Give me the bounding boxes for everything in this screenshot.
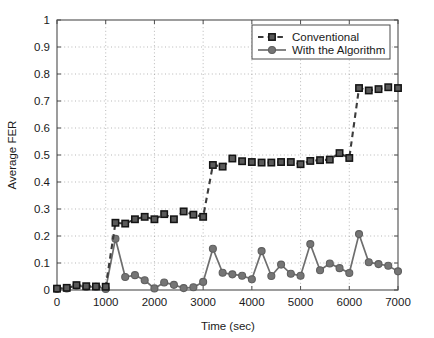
data-point-marker bbox=[327, 156, 333, 162]
legend-label-conventional: Conventional bbox=[292, 31, 359, 43]
y-tick-label: 0.7 bbox=[34, 95, 50, 107]
data-point-marker bbox=[210, 162, 216, 168]
y-tick-label: 0 bbox=[44, 284, 50, 296]
data-point-marker bbox=[209, 245, 216, 252]
data-point-marker bbox=[180, 285, 187, 292]
data-point-marker bbox=[219, 163, 225, 169]
data-point-marker bbox=[346, 269, 353, 276]
x-tick-label: 4000 bbox=[239, 296, 265, 308]
legend-marker-circle-icon bbox=[269, 47, 276, 54]
x-tick-label: 7000 bbox=[385, 296, 411, 308]
x-axis-title: Time (sec) bbox=[201, 320, 255, 332]
data-point-marker bbox=[385, 84, 391, 90]
data-point-marker bbox=[170, 281, 177, 288]
legend-label-algorithm: With the Algorithm bbox=[292, 44, 385, 56]
data-point-marker bbox=[171, 216, 177, 222]
data-point-marker bbox=[268, 272, 275, 279]
data-point-marker bbox=[132, 216, 138, 222]
x-tick-label: 2000 bbox=[142, 296, 168, 308]
data-point-marker bbox=[248, 276, 255, 283]
data-point-marker bbox=[151, 285, 158, 292]
series-line bbox=[57, 87, 398, 288]
data-point-marker bbox=[180, 208, 186, 214]
y-axis-title: Average FER bbox=[6, 121, 18, 190]
data-point-marker bbox=[103, 284, 109, 290]
x-tick-label: 3000 bbox=[190, 296, 216, 308]
data-point-marker bbox=[122, 274, 129, 281]
data-point-marker bbox=[375, 261, 382, 268]
series-line bbox=[57, 234, 398, 289]
x-tick-label: 0 bbox=[54, 296, 60, 308]
data-point-marker bbox=[297, 161, 303, 167]
data-point-marker bbox=[268, 159, 274, 165]
data-point-marker bbox=[141, 214, 147, 220]
data-point-marker bbox=[229, 271, 236, 278]
fer-line-chart: 00.10.20.30.40.50.60.70.80.91 0100020003… bbox=[0, 0, 434, 338]
x-tick-label: 1000 bbox=[93, 296, 119, 308]
data-point-marker bbox=[395, 85, 401, 91]
data-point-marker bbox=[200, 214, 206, 220]
data-point-marker bbox=[375, 86, 381, 92]
data-point-marker bbox=[326, 260, 333, 267]
data-point-marker bbox=[307, 241, 314, 248]
data-point-marker bbox=[229, 155, 235, 161]
data-point-marker bbox=[239, 158, 245, 164]
y-axis-tick-labels: 00.10.20.30.40.50.60.70.80.91 bbox=[34, 14, 51, 296]
data-point-marker bbox=[365, 259, 372, 266]
y-tick-label: 0.5 bbox=[34, 149, 50, 161]
data-point-marker bbox=[287, 270, 294, 277]
data-point-marker bbox=[249, 159, 255, 165]
data-point-marker bbox=[356, 231, 363, 238]
data-point-marker bbox=[297, 272, 304, 279]
data-point-marker bbox=[131, 272, 138, 279]
data-point-marker bbox=[356, 85, 362, 91]
data-point-marker bbox=[346, 155, 352, 161]
data-point-marker bbox=[151, 216, 157, 222]
data-point-marker bbox=[73, 282, 79, 288]
x-tick-label: 5000 bbox=[288, 296, 314, 308]
data-point-marker bbox=[317, 267, 324, 274]
data-point-marker bbox=[190, 211, 196, 217]
data-point-marker bbox=[219, 269, 226, 276]
data-point-marker bbox=[93, 283, 99, 289]
y-tick-label: 0.6 bbox=[34, 122, 50, 134]
data-point-marker bbox=[112, 220, 118, 226]
data-point-marker bbox=[366, 87, 372, 93]
legend-marker-square-icon bbox=[269, 34, 275, 40]
data-point-marker bbox=[161, 211, 167, 217]
data-point-marker bbox=[64, 285, 70, 291]
series-conventional bbox=[54, 84, 401, 292]
y-tick-label: 1 bbox=[44, 14, 50, 26]
y-tick-label: 0.2 bbox=[34, 230, 50, 242]
data-point-marker bbox=[385, 262, 392, 269]
y-tick-label: 0.3 bbox=[34, 203, 50, 215]
data-point-marker bbox=[278, 261, 285, 268]
x-axis-tick-labels: 01000200030004000500060007000 bbox=[54, 296, 411, 308]
data-point-marker bbox=[317, 157, 323, 163]
y-tick-label: 0.9 bbox=[34, 41, 50, 53]
data-point-marker bbox=[190, 284, 197, 291]
data-point-marker bbox=[141, 277, 148, 284]
data-point-marker bbox=[307, 158, 313, 164]
x-tick-label: 6000 bbox=[336, 296, 362, 308]
data-point-marker bbox=[122, 220, 128, 226]
data-point-marker bbox=[336, 150, 342, 156]
data-point-marker bbox=[161, 279, 168, 286]
data-point-marker bbox=[258, 159, 264, 165]
data-point-marker bbox=[258, 248, 265, 255]
data-point-marker bbox=[239, 272, 246, 279]
y-tick-label: 0.8 bbox=[34, 68, 50, 80]
data-point-marker bbox=[200, 278, 207, 285]
data-point-marker bbox=[395, 268, 402, 275]
data-point-marker bbox=[278, 159, 284, 165]
chart-legend: ConventionalWith the Algorithm bbox=[252, 25, 390, 59]
y-tick-label: 0.4 bbox=[34, 176, 51, 188]
data-point-marker bbox=[54, 285, 60, 291]
data-point-marker bbox=[336, 265, 343, 272]
chart-figure: 00.10.20.30.40.50.60.70.80.91 0100020003… bbox=[0, 0, 434, 338]
y-tick-label: 0.1 bbox=[34, 257, 50, 269]
data-point-marker bbox=[83, 283, 89, 289]
data-point-marker bbox=[288, 159, 294, 165]
